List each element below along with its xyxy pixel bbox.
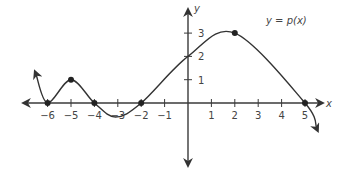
marked-points [45,30,308,106]
function-graph: −6−5−4−3−2−112345 123 x y y = p(x) [0,0,349,175]
x-tick-label: −5 [64,110,79,121]
marked-point [45,100,51,106]
y-tick-label: 1 [198,75,204,86]
x-tick-label: −1 [157,110,172,121]
x-tick-label: 3 [255,110,261,121]
marked-point [138,100,144,106]
marked-point [302,100,308,106]
x-tick-label: −4 [87,110,102,121]
marked-point [68,77,74,83]
x-axis-label: x [325,98,332,109]
y-axis-label: y [193,3,201,14]
x-tick-label: −2 [134,110,149,121]
function-label: y = p(x) [265,15,307,26]
y-tick-label: 2 [198,51,204,62]
x-tick-label: 1 [208,110,214,121]
x-tick-label: 5 [302,110,308,121]
x-tick-label: 4 [278,110,284,121]
marked-point [232,30,238,36]
x-tick-label: −6 [40,110,55,121]
x-tick-label: 2 [232,110,238,121]
marked-point [91,100,97,106]
y-tick-label: 3 [198,28,204,39]
